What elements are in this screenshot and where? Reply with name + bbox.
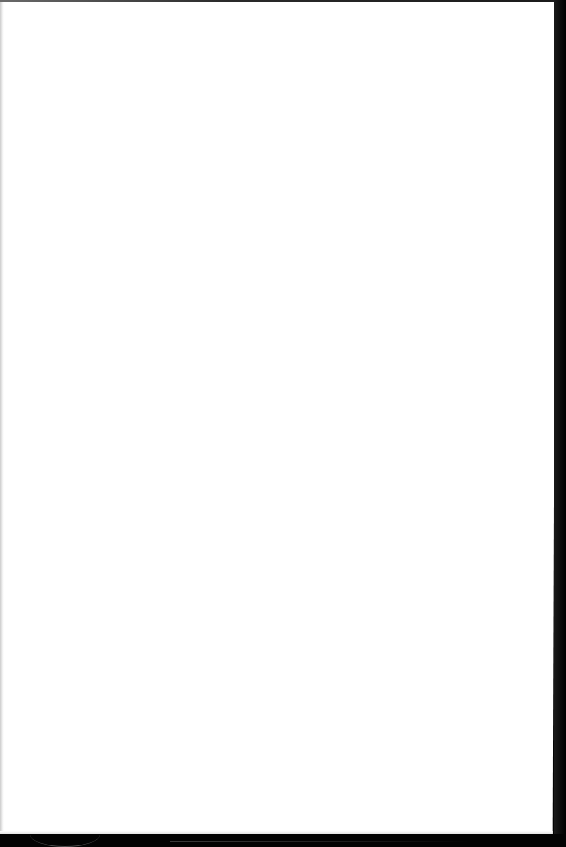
photo-scene xyxy=(0,0,566,847)
bottom-curve-artifact xyxy=(30,822,100,847)
page-left-edge-shadow xyxy=(0,2,4,834)
bottom-reflection-line xyxy=(170,841,470,842)
right-background-band xyxy=(554,0,566,847)
blank-page xyxy=(0,2,556,834)
